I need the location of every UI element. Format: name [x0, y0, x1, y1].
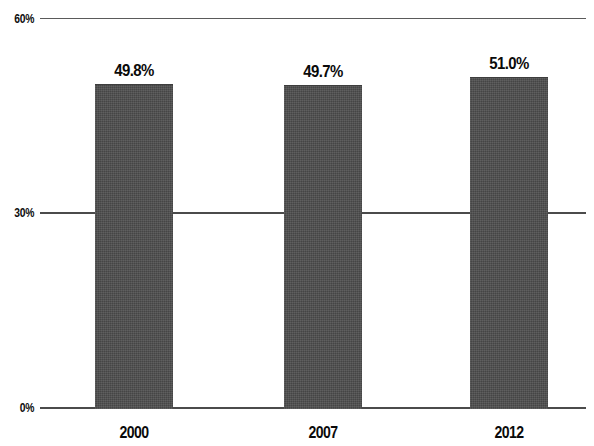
y-axis-tick-label-0: 0% — [5, 402, 34, 414]
x-axis-category-label-2012: 2012 — [465, 425, 553, 441]
y-axis-tick-label-30: 30% — [5, 207, 34, 219]
x-axis-category-label-2007: 2007 — [279, 425, 367, 441]
bar-value-label-2012: 51.0% — [465, 55, 553, 72]
bar-2012[interactable] — [470, 77, 548, 409]
bar-2000[interactable] — [95, 84, 173, 409]
plot-area: 60% 30% 0% 49.8% 49.7% 51.0% 2000 2007 2… — [0, 0, 594, 446]
bar-2007[interactable] — [284, 85, 362, 409]
bar-chart: 60% 30% 0% 49.8% 49.7% 51.0% 2000 2007 2… — [0, 0, 594, 446]
y-axis-tick-label-60: 60% — [5, 13, 34, 25]
x-axis-category-label-2000: 2000 — [90, 425, 178, 441]
gridline-60 — [40, 18, 586, 19]
bar-value-label-2000: 49.8% — [90, 62, 178, 79]
bar-value-label-2007: 49.7% — [279, 63, 367, 80]
